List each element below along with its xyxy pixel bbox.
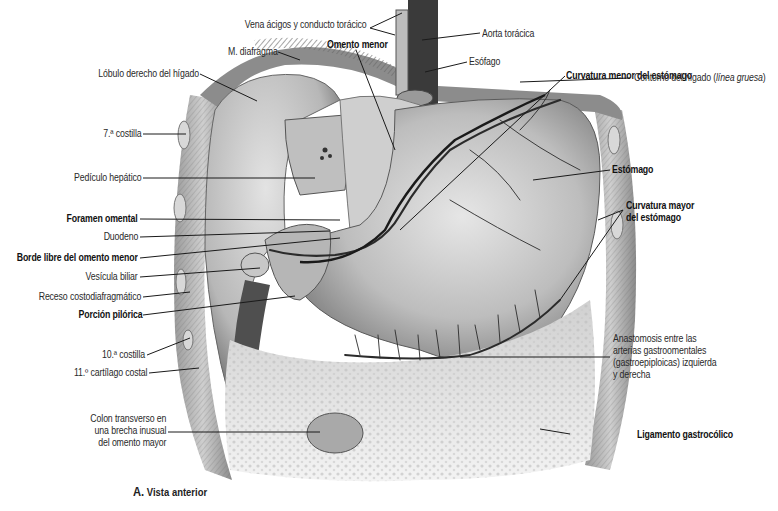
gallbladder [241, 253, 269, 277]
rib-right-1 [608, 126, 620, 154]
label-omental-foramen: Foramen omental [67, 213, 138, 225]
label-greater-curvature: Curvatura mayor del estómago [626, 200, 694, 224]
label-gastrocolic-ligament: Ligamento gastrocólico [637, 429, 733, 441]
azygos-vein [396, 10, 408, 95]
label-azygos-vein: Vena ácigos y conducto torácico [244, 19, 366, 31]
label-hepatic-pedicle: Pedículo hepático [74, 172, 141, 184]
transverse-colon [307, 413, 363, 453]
caption-letter: A. [133, 484, 144, 499]
label-diaphragm: M. diafragma [228, 46, 278, 58]
label-free-border-lesser-omentum: Borde libre del omento menor [17, 252, 138, 264]
label-costal-cartilage-11: 11.º cartílago costal [74, 367, 147, 379]
label-gallbladder: Vesícula biliar [86, 271, 138, 283]
caption-text: Vista anterior [147, 486, 207, 498]
label-liver-right-lobe: Lóbulo derecho del hígado [98, 68, 199, 80]
label-lesser-omentum: Omento menor [327, 39, 388, 51]
label-esophagus: Esófago [469, 56, 500, 68]
rib-left-3 [176, 269, 186, 295]
figure-caption: A. Vista anterior [133, 484, 207, 499]
label-rib-7: 7.ª costilla [103, 128, 141, 140]
label-costodiaphragmatic-recess: Receso costodiafragmático [39, 291, 141, 303]
label-gastro-omental-anastomosis: Anastomosis entre las arterias gastroome… [613, 333, 717, 381]
label-liver-contour: Contorno del hígado (línea gruesa) [634, 72, 766, 84]
label-transverse-colon: Colon transverso en una brecha inusual d… [90, 413, 166, 449]
label-duodenum: Duodeno [103, 231, 138, 243]
rib-left-2 [174, 194, 186, 222]
label-thoracic-aorta: Aorta torácica [482, 28, 534, 40]
label-stomach: Estómago [612, 164, 653, 176]
label-rib-10: 10.ª costilla [102, 349, 145, 361]
rib-7 [178, 121, 190, 149]
label-pyloric-part: Porción pilórica [79, 309, 143, 321]
